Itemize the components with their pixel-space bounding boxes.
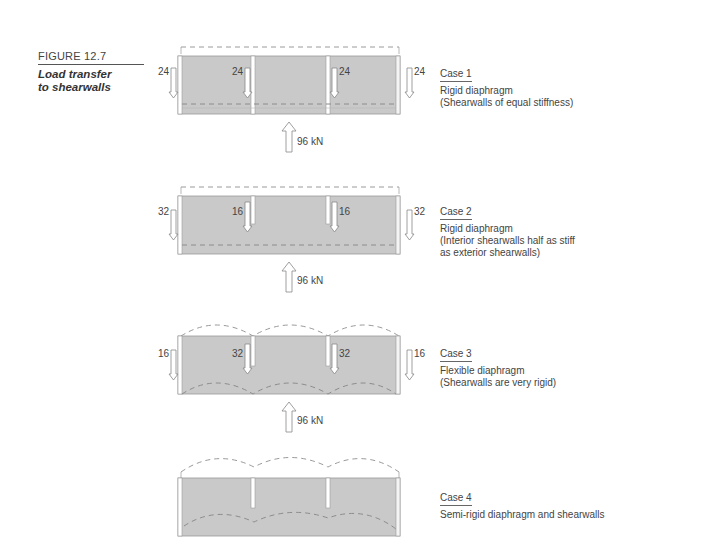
case-2-reaction-arrow-left-exterior (169, 210, 178, 240)
case-3-reaction-arrow-right-exterior (405, 350, 414, 380)
case-3-desc-line-2: (Shearwalls are very rigid) (440, 377, 556, 389)
case-4-desc-line-1: Semi-rigid diaphragm and shearwalls (440, 509, 605, 521)
case-3-label: Case 3 Flexible diaphragm (Shearwalls ar… (440, 348, 556, 389)
case-2-right-exterior-shearwall (396, 196, 400, 254)
case-4-diaphragm (178, 478, 400, 536)
case-3-top-arch-line (181, 325, 399, 336)
case-2-desc-line-2: (Interior shearwalls half as stiff (440, 235, 575, 247)
case-1-right-exterior-shearwall (396, 56, 400, 114)
case-3-reaction-right-exterior: 16 (414, 348, 425, 359)
case-2-reaction-left-interior: 16 (232, 206, 243, 217)
case-2-right-interior-shearwall (326, 196, 330, 224)
case-1-load-arrow (282, 122, 296, 152)
case-1-desc-line-1: Rigid diaphragm (440, 85, 573, 97)
case-3-title: Case 3 (440, 348, 472, 362)
case-1-label: Case 1 Rigid diaphragm (Shearwalls of eq… (440, 68, 573, 109)
case-2-title: Case 2 (440, 206, 472, 220)
case-3-reaction-arrow-left-exterior (169, 350, 178, 380)
case-3-diagram (169, 325, 414, 432)
case-3-load-label: 96 kN (297, 415, 323, 426)
case-4-title: Case 4 (440, 492, 472, 506)
case-4-top-wavy-line (181, 458, 399, 473)
case-2-reaction-right-interior: 16 (339, 206, 350, 217)
case-2-desc-line-1: Rigid diaphragm (440, 223, 575, 235)
case-1-reaction-left-interior: 24 (232, 66, 243, 77)
case-2-reaction-left-exterior: 32 (158, 206, 169, 217)
case-3-reaction-left-exterior: 16 (158, 348, 169, 359)
case-1-left-exterior-shearwall (178, 56, 182, 114)
case-3-left-exterior-shearwall (178, 336, 182, 394)
case-2-label: Case 2 Rigid diaphragm (Interior shearwa… (440, 206, 575, 259)
case-4-diagram (178, 458, 400, 537)
case-1-load-label: 96 kN (297, 136, 323, 147)
case-3-desc-line-1: Flexible diaphragm (440, 365, 556, 377)
case-2-reaction-arrow-right-exterior (405, 210, 414, 240)
case-3-reaction-right-interior: 32 (339, 348, 350, 359)
case-1-left-interior-shearwall (251, 56, 255, 114)
case-4-left-exterior-shearwall (178, 478, 182, 536)
case-1-diagram (169, 47, 414, 152)
case-3-diaphragm (178, 336, 400, 394)
case-1-reaction-right-exterior: 24 (414, 66, 425, 77)
case-1-title: Case 1 (440, 68, 472, 82)
case-1-reaction-arrow-right-exterior (405, 68, 414, 98)
case-1-reaction-arrow-left-exterior (169, 68, 178, 98)
case-3-right-interior-shearwall (326, 336, 330, 366)
case-2-diagram (169, 187, 414, 292)
case-3-load-arrow (282, 402, 296, 432)
case-1-reaction-right-interior: 24 (339, 66, 350, 77)
case-1-right-interior-shearwall (326, 56, 330, 114)
case-1-desc-line-2: (Shearwalls of equal stiffness) (440, 97, 573, 109)
diagram-canvas (0, 0, 724, 558)
case-2-left-interior-shearwall (251, 196, 255, 224)
case-4-left-interior-shearwall (251, 478, 255, 508)
case-3-right-exterior-shearwall (396, 336, 400, 394)
case-2-reaction-right-exterior: 32 (414, 206, 425, 217)
case-2-left-exterior-shearwall (178, 196, 182, 254)
case-4-right-exterior-shearwall (396, 478, 400, 536)
case-3-reaction-left-interior: 32 (232, 348, 243, 359)
case-4-right-interior-shearwall (326, 478, 330, 508)
case-1-diaphragm (178, 56, 400, 114)
case-1-reaction-left-exterior: 24 (158, 66, 169, 77)
case-2-desc-line-3: as exterior shearwalls) (440, 247, 575, 259)
case-4-label: Case 4 Semi-rigid diaphragm and shearwal… (440, 492, 605, 521)
case-3-left-interior-shearwall (251, 336, 255, 366)
case-2-load-label: 96 kN (297, 275, 323, 286)
case-2-load-arrow (282, 262, 296, 292)
